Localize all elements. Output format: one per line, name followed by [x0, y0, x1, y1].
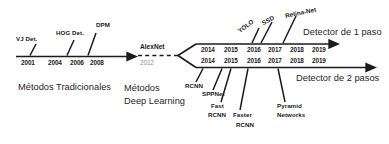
milestone-pyramid-networks-line1: Pyramid	[277, 103, 302, 110]
two-stage-year-2016: 2016	[247, 58, 261, 65]
fork-lower	[178, 56, 196, 68]
milestone-hog-det: HOG Det.	[56, 30, 84, 37]
milestone-faster-rcnn-line1: Faster	[233, 112, 252, 119]
one-stage-year-2017: 2017	[268, 47, 282, 54]
year-2012: 2012	[140, 60, 154, 67]
caption-traditional-methods: Métodos Tradicionales	[18, 83, 111, 93]
one-stage-year-2016: 2016	[247, 47, 261, 54]
caption-two-stage-detector: Detector de 2 pasos	[296, 74, 379, 84]
milestone-alexnet: AlexNet	[140, 44, 165, 51]
diagram-strokes	[0, 0, 389, 144]
one-stage-year-2019: 2019	[312, 47, 326, 54]
fork-upper	[178, 44, 196, 56]
milestone-vj-det: VJ Det.	[16, 36, 37, 43]
year-2001: 2001	[21, 60, 35, 67]
milestone-pyramid-networks-line2: Networks	[277, 112, 305, 119]
two-stage-year-2017: 2017	[268, 58, 282, 65]
one-stage-year-2014: 2014	[201, 47, 215, 54]
milestone-sppnet: SPPNet	[202, 91, 225, 98]
milestone-fast-rcnn-line1: Fast	[211, 103, 224, 110]
two-stage-year-2018: 2018	[290, 58, 304, 65]
year-2006: 2006	[70, 60, 84, 67]
two-stage-year-2019: 2019	[312, 58, 326, 65]
milestone-faster-rcnn-line2: RCNN	[236, 122, 254, 129]
milestone-fast-rcnn-line2: RCNN	[208, 112, 226, 119]
milestone-rcnn: RCNN	[185, 83, 203, 90]
year-2008: 2008	[90, 60, 104, 67]
year-2004: 2004	[48, 60, 62, 67]
caption-deep-learning-line2: Deep Learning	[124, 97, 185, 107]
caption-one-stage-detector: Detector de 1 paso	[303, 28, 382, 38]
milestone-dpm: DPM	[96, 22, 110, 29]
one-stage-year-2018: 2018	[290, 47, 304, 54]
two-stage-year-2015: 2015	[224, 58, 238, 65]
two-stage-year-2014: 2014	[201, 58, 215, 65]
timeline-diagram: VJ Det. HOG Det. DPM 2001 2004 2006 2008…	[0, 0, 389, 144]
caption-deep-learning-line1: Métodos	[124, 84, 160, 94]
one-stage-year-2015: 2015	[224, 47, 238, 54]
